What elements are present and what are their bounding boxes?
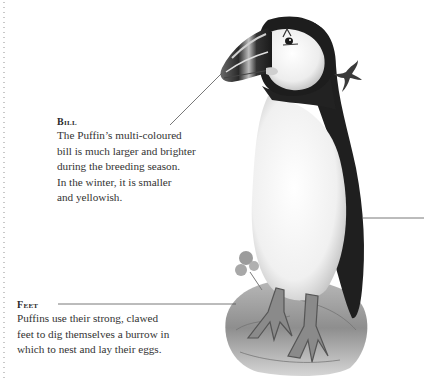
bill-line: The Puffin’s multi-coloured [57, 128, 196, 144]
bill-line: and yellowish. [57, 190, 196, 206]
bill-line: In the winter, it is smaller [57, 175, 196, 191]
bill-line: bill is much larger and brighter [57, 144, 196, 160]
bill-heading: Bill [57, 116, 196, 127]
feet-heading: Feet [17, 299, 169, 310]
bill-description: The Puffin’s multi-coloured bill is much… [57, 128, 196, 206]
feet-line: which to nest and lay their eggs. [17, 342, 169, 358]
feet-description: Puffins use their strong, clawed feet to… [17, 311, 169, 358]
bill-line: during the breeding season. [57, 159, 196, 175]
feet-line: Puffins use their strong, clawed [17, 311, 169, 327]
feet-annotation: Feet Puffins use their strong, clawed fe… [17, 299, 169, 358]
feet-line: feet to dig themselves a burrow in [17, 327, 169, 343]
bill-annotation: Bill The Puffin’s multi-coloured bill is… [57, 116, 196, 206]
